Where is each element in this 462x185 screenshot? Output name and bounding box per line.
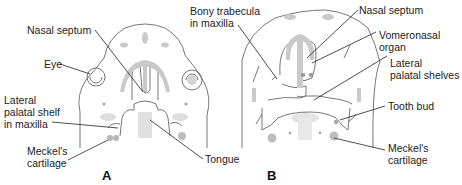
label-b-lateral-palatal-shelves: Lateral palatal shelves <box>390 57 459 81</box>
label-a-lateral-palatal-shelf: Lateral palatal shelf in maxilla <box>4 94 60 130</box>
label-b-vomeronasal-organ: Vomeronasal organ <box>379 29 440 53</box>
label-b-tooth-bud: Tooth bud <box>388 100 434 112</box>
label-a-meckels-cartilage: Meckel's cartilage <box>27 145 68 169</box>
label-a-eye: Eye <box>44 58 62 70</box>
embryo-palate-figure: Nasal septum Eye Lateral palatal shelf i… <box>0 0 462 185</box>
panel-a-tissue <box>100 32 197 141</box>
label-a-nasal-septum: Nasal septum <box>27 24 91 36</box>
label-b-meckels-cartilage: Meckel's cartilage <box>388 142 429 166</box>
label-b-bony-trabecula: Bony trabecula in maxilla <box>190 5 260 29</box>
label-a-tongue: Tongue <box>205 153 239 165</box>
panel-letter-a: A <box>102 168 111 183</box>
panel-b-tissue <box>252 14 361 143</box>
label-b-nasal-septum: Nasal septum <box>359 4 423 16</box>
panel-letter-b: B <box>267 168 276 183</box>
